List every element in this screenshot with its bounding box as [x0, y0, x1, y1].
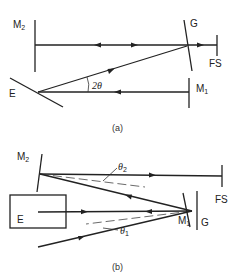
- beam-return-b: [40, 174, 192, 211]
- label-m2-b: M2: [17, 151, 29, 163]
- arrow-right-icon: [197, 43, 204, 48]
- arrow-left-icon: [94, 43, 101, 48]
- angle-arc-2theta: [87, 77, 89, 92]
- label-fs-b: FS: [215, 194, 228, 205]
- label-angle-2theta: 2θ: [92, 80, 102, 91]
- arrow-right-icon: [131, 43, 138, 48]
- label-e-a: E: [9, 88, 16, 99]
- arrow-right-icon: [149, 173, 156, 178]
- label-theta1: θ1: [120, 225, 129, 237]
- normal-line-m1: [86, 211, 192, 224]
- panel-b: M2 θ2 FS E θ1 M1 G (: [10, 151, 228, 272]
- label-m2-a: M2: [13, 19, 25, 31]
- arrow-up-right-icon: [108, 68, 116, 74]
- label-g-b: G: [201, 217, 209, 228]
- label-g-a: G: [190, 18, 198, 29]
- beam-top-b: [40, 174, 222, 176]
- label-theta2: θ2: [118, 161, 127, 173]
- beam-middle-b: [38, 211, 192, 212]
- beam-incoming-b: [38, 211, 192, 247]
- label-m1-a: M1: [196, 83, 208, 95]
- arrow-up-left-icon: [125, 195, 132, 200]
- mirror-m2-b: [37, 154, 42, 192]
- arrow-up-right-icon: [78, 236, 85, 241]
- label-e-b: E: [17, 214, 24, 225]
- arrow-left-icon: [145, 209, 152, 214]
- arrow-right-icon: [81, 209, 88, 214]
- caption-a: (a): [112, 123, 123, 133]
- arrow-left-icon: [114, 90, 121, 95]
- panel-a: M2 G FS E M1 2θ (a): [9, 18, 222, 133]
- optical-diagram: M2 G FS E M1 2θ (a) M2: [0, 0, 238, 278]
- normal-line-m2: [40, 174, 145, 187]
- caption-b: (b): [112, 262, 123, 272]
- label-fs-a: FS: [209, 58, 222, 69]
